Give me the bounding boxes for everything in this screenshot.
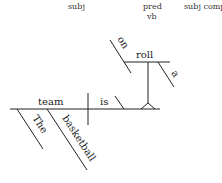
word-is: is <box>100 96 108 107</box>
label-subj-comp: subj comp <box>184 2 222 11</box>
label-vb: vb <box>146 12 157 21</box>
pedestal-left-leg <box>141 103 148 109</box>
word-roll: roll <box>136 49 153 60</box>
label-subj: subj <box>68 2 85 11</box>
complement-divider <box>115 96 124 109</box>
word-on: on <box>115 34 131 51</box>
word-the: The <box>30 113 50 135</box>
label-pred: pred <box>143 2 162 11</box>
word-a: a <box>169 68 181 79</box>
pedestal-right-leg <box>148 103 155 109</box>
word-team: team <box>38 96 64 107</box>
sentence-diagram: subj pred vb subj comp team is The baske… <box>0 0 222 183</box>
